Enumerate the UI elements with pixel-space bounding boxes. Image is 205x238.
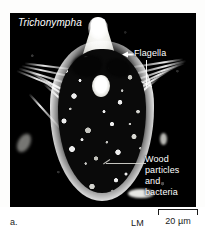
bacteria-texture bbox=[58, 49, 146, 193]
flagella-label: Flagella bbox=[134, 48, 166, 59]
micrograph-plate: Trichonympha Flagella Wood particles and… bbox=[10, 13, 196, 207]
microscopy-type-label: LM bbox=[131, 218, 144, 228]
wood-leader-line bbox=[106, 163, 146, 164]
wood-label-line-3: and bbox=[145, 176, 193, 187]
wood-label-line-2: particles bbox=[145, 165, 193, 176]
anterior-dark-region-right bbox=[106, 59, 130, 77]
debris-speck-right bbox=[160, 133, 167, 145]
scale-bar-label: 20 µm bbox=[158, 216, 198, 226]
wood-label-line-1: Wood bbox=[145, 154, 193, 165]
flagella-arrow-icon bbox=[122, 51, 134, 58]
scale-bar-group: 20 µm bbox=[158, 209, 198, 226]
rostrum-apex bbox=[88, 17, 108, 39]
micrograph-figure: Trichonympha Flagella Wood particles and… bbox=[0, 0, 205, 238]
nucleus bbox=[92, 75, 110, 97]
cytoplasm-granules bbox=[58, 49, 146, 193]
organism-name-label: Trichonympha bbox=[18, 18, 82, 29]
figure-caption-bar: a. LM 20 µm bbox=[0, 207, 205, 238]
scale-bar bbox=[158, 209, 198, 215]
wood-label-line-4: bacteria bbox=[145, 187, 193, 198]
wood-particles-label: Wood particles and bacteria bbox=[145, 154, 193, 198]
panel-letter: a. bbox=[10, 217, 18, 227]
